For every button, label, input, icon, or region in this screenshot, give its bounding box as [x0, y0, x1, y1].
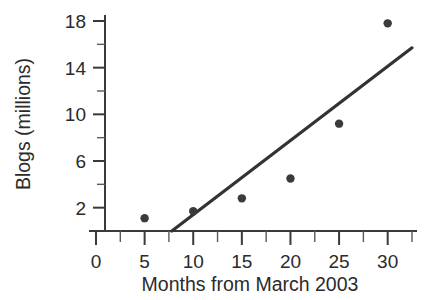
x-tick-label: 10 [183, 251, 204, 272]
data-point [286, 174, 294, 182]
data-point-series [140, 19, 391, 222]
x-tick-label: 0 [91, 251, 102, 272]
y-axis-tick-labels: 26101418 [65, 11, 87, 219]
y-tick-label: 2 [75, 198, 86, 219]
x-axis-tick-labels: 051015202530 [91, 251, 399, 272]
x-tick-label: 25 [329, 251, 350, 272]
x-axis-title: Months from March 2003 [142, 273, 359, 295]
data-point [140, 214, 148, 222]
x-tick-label: 5 [139, 251, 150, 272]
y-axis-ticks [93, 21, 105, 208]
data-point [189, 207, 197, 215]
data-point [383, 19, 391, 27]
y-tick-label: 10 [65, 104, 86, 125]
y-tick-label: 14 [65, 58, 87, 79]
trend-line-series [172, 48, 412, 231]
y-axis: 26101418 [65, 11, 105, 231]
y-axis-title: Blogs (millions) [12, 58, 34, 190]
y-tick-label: 18 [65, 11, 86, 32]
x-tick-label: 15 [231, 251, 252, 272]
data-point [238, 194, 246, 202]
plot-canvas: 26101418 051015202530 Months from March … [0, 0, 445, 300]
y-tick-label: 6 [75, 151, 86, 172]
x-tick-label: 30 [377, 251, 398, 272]
trend-line [172, 48, 412, 231]
x-axis: 051015202530 [90, 231, 416, 272]
data-point [335, 119, 343, 127]
x-axis-ticks [96, 231, 412, 245]
x-tick-label: 20 [280, 251, 301, 272]
scatter-plot-figure: 26101418 051015202530 Months from March … [0, 0, 445, 300]
